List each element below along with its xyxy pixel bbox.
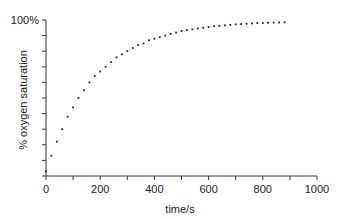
data-point [105, 66, 107, 68]
data-point [159, 36, 161, 38]
data-point [56, 141, 58, 143]
data-point [256, 22, 258, 24]
data-point [284, 21, 286, 23]
x-tick-label: 1000 [305, 183, 329, 195]
data-point [219, 25, 221, 27]
data-point [51, 155, 53, 157]
x-axis-title: time/s [165, 203, 195, 215]
data-point [137, 44, 139, 46]
data-point [83, 89, 85, 91]
data-points [45, 21, 285, 172]
data-point [186, 29, 188, 31]
data-point [121, 53, 123, 55]
data-point [94, 75, 96, 77]
y-axis-title: % oxygen saturation [17, 50, 29, 150]
data-point [197, 28, 199, 30]
data-point [148, 39, 150, 41]
data-point [208, 26, 210, 28]
data-point [262, 22, 264, 24]
data-point [251, 23, 253, 25]
x-tick-label: 0 [43, 183, 49, 195]
data-point [67, 116, 69, 118]
data-point [213, 25, 215, 27]
x-tick-label: 400 [145, 183, 163, 195]
data-point [116, 57, 118, 59]
data-point [273, 22, 275, 24]
data-point [78, 97, 80, 99]
data-point [175, 32, 177, 34]
data-point [224, 24, 226, 26]
data-point [170, 33, 172, 35]
data-point [88, 82, 90, 84]
data-point [267, 22, 269, 24]
data-point [235, 23, 237, 25]
data-point [154, 38, 156, 40]
x-axis: 02004006008001000 [43, 176, 329, 195]
data-point [278, 22, 280, 24]
y-tick-label: 100% [11, 14, 39, 26]
data-point [143, 43, 145, 45]
data-point [110, 61, 112, 63]
data-point [61, 128, 63, 130]
data-point [132, 47, 134, 49]
data-point [181, 30, 183, 32]
data-point [191, 28, 193, 30]
data-point [202, 27, 204, 29]
saturation-chart: 100% 02004006008001000 time/s % oxygen s… [0, 0, 344, 219]
data-point [164, 35, 166, 37]
data-point [229, 24, 231, 26]
data-point [240, 23, 242, 25]
x-tick-label: 200 [91, 183, 109, 195]
data-point [246, 23, 248, 25]
data-point [72, 106, 74, 108]
x-tick-label: 800 [254, 183, 272, 195]
data-point [45, 170, 47, 172]
x-tick-label: 600 [199, 183, 217, 195]
data-point [99, 71, 101, 73]
data-point [126, 50, 128, 52]
